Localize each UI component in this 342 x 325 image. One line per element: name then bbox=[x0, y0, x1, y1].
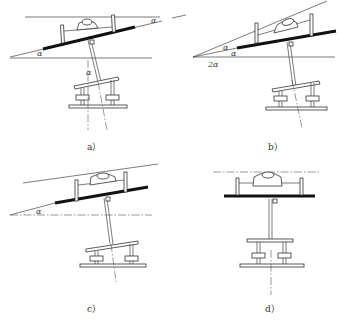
slope-line-2alpha bbox=[193, 1, 327, 57]
panel-label-d: d） bbox=[265, 304, 280, 314]
leveling-diagram: α α α a） α α 2α b） bbox=[0, 0, 342, 325]
spindle-left bbox=[104, 198, 110, 244]
leveling-screw-right bbox=[278, 253, 291, 258]
angle-label-lower-alpha: α bbox=[231, 49, 237, 58]
panel-d: d） bbox=[213, 172, 320, 314]
panel-label-b: b） bbox=[268, 142, 283, 152]
panel-label-a: a） bbox=[87, 142, 101, 152]
leveling-screw-left bbox=[90, 256, 103, 261]
leveling-screw-right bbox=[125, 256, 138, 261]
table-bar bbox=[237, 31, 336, 48]
right-post bbox=[300, 178, 303, 195]
right-angle-mark bbox=[90, 40, 94, 44]
angle-label-upper-alpha: α bbox=[223, 43, 229, 52]
leveling-screw-left bbox=[76, 95, 89, 100]
angle-label-top: α bbox=[151, 16, 157, 25]
right-angle-mark bbox=[106, 197, 110, 201]
base-plate bbox=[80, 264, 146, 267]
leveling-screw-right bbox=[106, 95, 119, 100]
panel-a: α α α a） bbox=[10, 15, 162, 152]
panel-label-c: c） bbox=[87, 304, 101, 314]
left-post bbox=[255, 23, 258, 43]
left-post bbox=[61, 25, 65, 43]
left-post bbox=[236, 178, 239, 195]
inclined-axis bbox=[111, 244, 116, 282]
spindle-right bbox=[91, 40, 101, 82]
base-plate bbox=[69, 105, 127, 108]
right-post bbox=[310, 14, 313, 36]
left-post bbox=[75, 180, 78, 201]
upper-plate bbox=[247, 239, 293, 242]
upper-plate bbox=[272, 81, 320, 92]
leveling-screw-left bbox=[252, 253, 265, 258]
bubble-icon bbox=[82, 19, 92, 25]
right-post bbox=[112, 15, 116, 32]
spindle-right bbox=[290, 42, 296, 87]
right-post bbox=[124, 172, 127, 192]
angle-label-2alpha: 2α bbox=[207, 60, 219, 69]
base-plate bbox=[266, 107, 327, 110]
reference-line-fragment bbox=[172, 15, 186, 18]
bubble-icon bbox=[262, 172, 274, 178]
panel-b: α α 2α b） bbox=[172, 1, 336, 152]
bubble-icon bbox=[97, 173, 109, 179]
angle-label-left: α bbox=[36, 207, 42, 216]
table-bar bbox=[55, 187, 148, 203]
spindle-right bbox=[107, 198, 113, 244]
base-plate bbox=[240, 264, 304, 267]
right-angle-mark bbox=[273, 199, 277, 203]
leveling-screw-right bbox=[306, 96, 319, 101]
slope-line bbox=[10, 203, 55, 215]
angle-label-spindle: α bbox=[86, 68, 92, 77]
right-angle-mark bbox=[289, 42, 293, 46]
angle-label-left: α bbox=[37, 49, 43, 58]
upper-plate bbox=[74, 77, 119, 89]
leveling-screw-left bbox=[274, 96, 287, 101]
panel-c: α c） bbox=[10, 164, 158, 314]
